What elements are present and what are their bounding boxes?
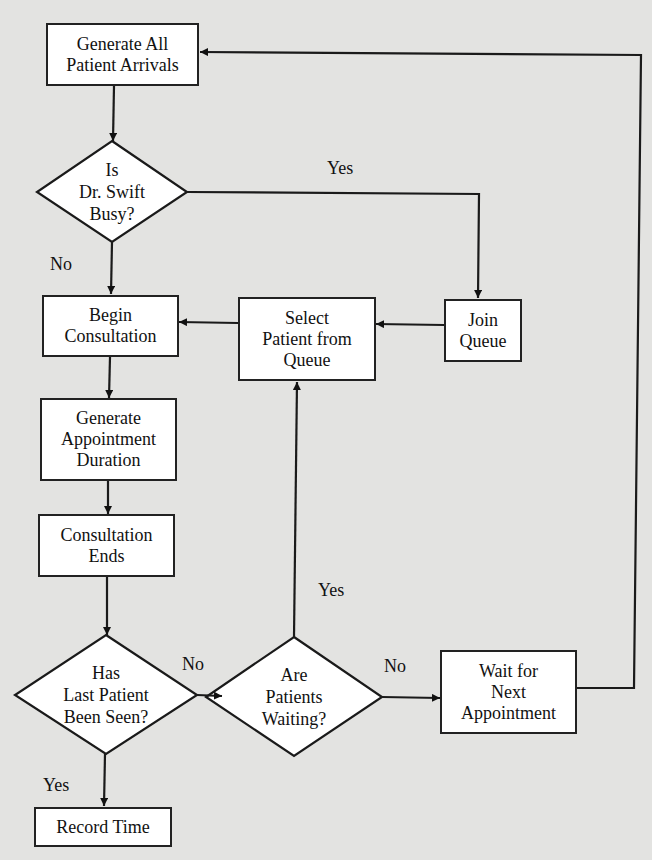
node-text: Select — [285, 308, 329, 329]
node-record-time: Record Time — [34, 807, 172, 847]
node-wait-for-next-appointment: Wait for Next Appointment — [440, 650, 577, 734]
node-join-queue: Join Queue — [444, 299, 522, 362]
node-text: Begin — [89, 305, 132, 326]
node-text: Been Seen? — [64, 706, 148, 728]
node-generate-all-patient-arrivals: Generate All Patient Arrivals — [46, 23, 199, 86]
node-text: Patient Arrivals — [66, 55, 178, 76]
node-text: Next — [491, 682, 526, 703]
node-text: Generate All — [77, 34, 168, 55]
node-text: Queue — [284, 350, 331, 371]
node-has-last-patient-been-seen: Has Last Patient Been Seen? — [46, 660, 166, 730]
node-text: Appointment — [61, 429, 156, 450]
node-text: Generate — [76, 408, 141, 429]
node-text: Queue — [460, 331, 507, 352]
node-text: Are — [281, 664, 308, 686]
node-are-patients-waiting: Are Patients Waiting? — [244, 662, 344, 732]
node-text: Wait for — [479, 661, 538, 682]
node-consultation-ends: Consultation Ends — [38, 514, 175, 577]
node-text: Patient from — [262, 329, 351, 350]
node-text: Appointment — [461, 703, 556, 724]
node-text: Join — [468, 310, 498, 331]
node-text: Consultation — [64, 326, 156, 347]
node-generate-appointment-duration: Generate Appointment Duration — [40, 398, 177, 481]
node-text: Dr. Swift — [79, 181, 145, 203]
edge-label-busy-no: No — [50, 254, 72, 274]
node-select-patient-from-queue: Select Patient from Queue — [238, 297, 376, 381]
edge-label-busy-yes: Yes — [327, 158, 353, 178]
edge-label-last-no: No — [182, 654, 204, 674]
node-begin-consultation: Begin Consultation — [42, 295, 179, 357]
node-text: Busy? — [90, 203, 135, 225]
node-text: Has — [92, 662, 120, 684]
node-text: Ends — [89, 546, 125, 567]
edge-label-last-yes: Yes — [43, 775, 69, 795]
node-text: Is — [106, 159, 119, 181]
node-text: Duration — [77, 450, 141, 471]
node-text: Record Time — [56, 817, 150, 838]
node-is-dr-swift-busy: Is Dr. Swift Busy? — [62, 158, 162, 226]
edge-label-waiting-no: No — [384, 656, 406, 676]
node-text: Patients — [266, 686, 323, 708]
node-text: Waiting? — [262, 708, 327, 730]
node-text: Last Patient — [63, 684, 148, 706]
node-text: Consultation — [60, 525, 152, 546]
edge-label-waiting-yes: Yes — [318, 580, 344, 600]
